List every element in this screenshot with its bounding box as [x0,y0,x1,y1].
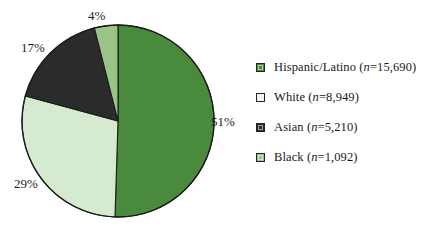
legend-label-hispanic-latino: Hispanic/Latino (n=15,690) [274,60,416,75]
legend-swatch-asian [256,123,265,132]
legend-item-white: White (n=8,949) [256,82,430,112]
legend: Hispanic/Latino (n=15,690) White (n=8,94… [256,52,430,172]
legend-item-hispanic-latino: Hispanic/Latino (n=15,690) [256,52,430,82]
pie-label-asian: 17% [21,40,45,56]
pie-label-hispanic-latino: 51% [211,114,235,130]
legend-n-value-hispanic-latino: =15,690) [370,60,416,74]
legend-item-asian: Asian (n=5,210) [256,112,430,142]
pie-slice-hispanic-latino [115,25,214,217]
legend-n-value-black: =1,092) [318,150,358,164]
legend-label-white: White (n=8,949) [274,90,359,105]
legend-name-black: Black [274,150,304,164]
legend-name-asian: Asian [274,120,304,134]
legend-n-value-white: =8,949) [319,90,359,104]
pie-label-black: 4% [88,8,105,24]
legend-swatch-black [256,153,265,162]
legend-item-black: Black (n=1,092) [256,142,430,172]
pie-svg [20,23,216,219]
legend-name-hispanic-latino: Hispanic/Latino [274,60,356,74]
legend-n-value-asian: =5,210) [318,120,358,134]
legend-swatch-white [256,93,265,102]
pie-graphic [20,23,216,219]
legend-swatch-hispanic-latino [256,63,265,72]
legend-label-asian: Asian (n=5,210) [274,120,358,135]
legend-label-black: Black (n=1,092) [274,150,358,165]
pie-label-white: 29% [14,176,38,192]
pie-chart-figure: 4% 17% 51% 29% Hispanic/Latino (n=15,690… [0,0,430,230]
legend-name-white: White [274,90,305,104]
chart-title [0,0,430,4]
